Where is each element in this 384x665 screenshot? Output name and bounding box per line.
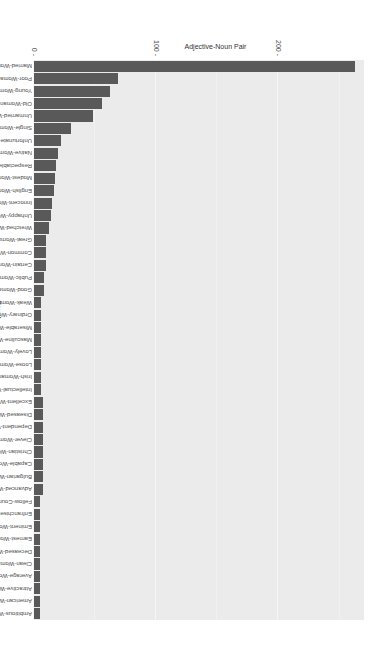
bar bbox=[34, 210, 51, 221]
bar bbox=[34, 546, 40, 557]
category-label: Old-Woman - bbox=[0, 101, 32, 107]
bar bbox=[34, 173, 55, 184]
bar bbox=[34, 471, 43, 482]
bar bbox=[34, 98, 102, 109]
category-label: Clean-Woman - bbox=[0, 561, 32, 567]
bar bbox=[34, 135, 61, 146]
bar bbox=[34, 247, 46, 258]
category-label: Christian-Woman - bbox=[0, 449, 32, 455]
bar bbox=[34, 185, 54, 196]
y-tick-label: 0 - bbox=[31, 38, 38, 56]
category-label: Ambitious-Woman - bbox=[0, 611, 32, 617]
category-label: Good-Woman - bbox=[0, 287, 32, 293]
category-label: Wretched-Woman - bbox=[0, 225, 32, 231]
bar bbox=[34, 558, 40, 569]
bar bbox=[34, 422, 43, 433]
category-label: English-Woman - bbox=[0, 188, 32, 194]
category-label: Certain-Woman - bbox=[0, 262, 32, 268]
category-label: Single-Woman - bbox=[0, 125, 32, 131]
category-label: Eminent-Woman - bbox=[0, 524, 32, 530]
category-label: Masculine-Woman - bbox=[0, 337, 32, 343]
plot-area bbox=[34, 60, 364, 620]
bar bbox=[34, 571, 40, 582]
category-label: Deceased-Woman - bbox=[0, 549, 32, 555]
bar bbox=[34, 509, 40, 520]
category-label: Public-Woman - bbox=[0, 275, 32, 281]
category-label: Respectable-Woman - bbox=[0, 163, 32, 169]
category-label: Weak-Woman - bbox=[0, 300, 32, 306]
category-label: Dependent-Woman - bbox=[0, 424, 32, 430]
bar bbox=[34, 459, 43, 470]
bar bbox=[34, 285, 44, 296]
bar bbox=[34, 198, 52, 209]
category-label: Enfranchised-Woman - bbox=[0, 511, 32, 517]
category-label: Lovely-Woman - bbox=[0, 349, 32, 355]
category-label: Average-Woman - bbox=[0, 573, 32, 579]
bar bbox=[34, 359, 41, 370]
category-label: Miserable-Woman - bbox=[0, 325, 32, 331]
bar bbox=[34, 596, 40, 607]
bar bbox=[34, 61, 355, 72]
bar bbox=[34, 434, 43, 445]
bar bbox=[34, 534, 40, 545]
bar bbox=[34, 73, 118, 84]
bar bbox=[34, 583, 40, 594]
category-label: Innocent-Woman - bbox=[0, 200, 32, 206]
bar bbox=[34, 235, 46, 246]
bar bbox=[34, 484, 43, 495]
category-label: Attractive-Woman - bbox=[0, 586, 32, 592]
category-label: Unmarried-Woman - bbox=[0, 113, 32, 119]
category-label: Native-Woman - bbox=[0, 150, 32, 156]
category-label: Married-Woman - bbox=[0, 63, 32, 69]
category-label: Diseased-Woman - bbox=[0, 412, 32, 418]
category-label: Poor-Woman - bbox=[0, 76, 32, 82]
bar bbox=[34, 310, 41, 321]
bar bbox=[34, 322, 41, 333]
bar bbox=[34, 608, 40, 619]
category-label: Excellent-Woman - bbox=[0, 399, 32, 405]
bar bbox=[34, 397, 43, 408]
category-label: Unhappy-Woman - bbox=[0, 213, 32, 219]
bar bbox=[34, 160, 56, 171]
bar bbox=[34, 347, 41, 358]
bar bbox=[34, 496, 40, 507]
bar bbox=[34, 110, 93, 121]
bar bbox=[34, 372, 41, 383]
category-label: Intellectual-Woman - bbox=[0, 387, 32, 393]
category-label: Modest-Woman - bbox=[0, 175, 32, 181]
category-label: Loose-Woman - bbox=[0, 362, 32, 368]
bar bbox=[34, 384, 41, 395]
y-tick-label: 200 - bbox=[275, 38, 282, 56]
bar bbox=[34, 409, 43, 420]
x-axis-title: Adjective-Noun Pair bbox=[185, 43, 247, 50]
category-label: Fellow-Countrywoman - bbox=[0, 499, 32, 505]
bar bbox=[34, 446, 43, 457]
category-label: Clever-Woman - bbox=[0, 437, 32, 443]
category-label: Common-Woman - bbox=[0, 250, 32, 256]
bar bbox=[34, 260, 46, 271]
bar bbox=[34, 272, 44, 283]
category-label: Unfortunate-Woman - bbox=[0, 138, 32, 144]
bar bbox=[34, 521, 40, 532]
category-label: Young-Woman - bbox=[0, 88, 32, 94]
bar bbox=[34, 222, 49, 233]
bar bbox=[34, 334, 41, 345]
y-axis-title: Count bbox=[0, 300, 2, 319]
category-label: American-Woman - bbox=[0, 598, 32, 604]
bar bbox=[34, 148, 58, 159]
bar bbox=[34, 297, 41, 308]
category-label: Great-Woman - bbox=[0, 237, 32, 243]
category-label: Earnest-Woman - bbox=[0, 536, 32, 542]
category-labels: Married-Woman -Poor-Woman -Young-Woman -… bbox=[2, 60, 32, 620]
category-label: Advanced-Woman - bbox=[0, 486, 32, 492]
y-tick-label: 100 - bbox=[153, 38, 160, 56]
category-label: Bulgarian-Woman - bbox=[0, 474, 32, 480]
chart-stage: Adjective-Noun Pair 0 -100 -200 - Marrie… bbox=[0, 0, 384, 665]
category-label: Ordinary-Woman - bbox=[0, 312, 32, 318]
bars bbox=[34, 60, 364, 620]
category-label: Capable-Woman - bbox=[0, 461, 32, 467]
category-label: Irish-Woman - bbox=[0, 374, 32, 380]
bar bbox=[34, 123, 71, 134]
bar bbox=[34, 86, 110, 97]
